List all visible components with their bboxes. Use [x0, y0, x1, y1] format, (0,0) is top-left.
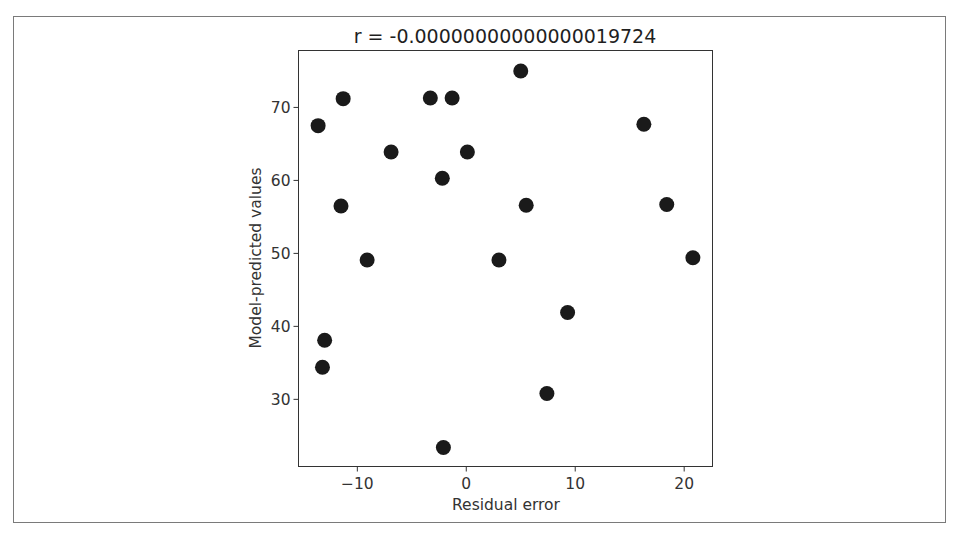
y-axis-ticks: 3040506070 — [271, 99, 299, 409]
data-point — [685, 250, 700, 265]
data-point — [435, 171, 450, 186]
data-point — [491, 252, 506, 267]
y-tick-label: 40 — [271, 318, 291, 336]
data-point — [513, 63, 528, 78]
y-axis-label: Model-predicted values — [247, 168, 265, 349]
chart-title: r = -0.00000000000000019724 — [354, 25, 657, 47]
data-point — [436, 440, 451, 455]
data-point — [560, 305, 575, 320]
x-tick-label: 20 — [674, 475, 694, 493]
data-point — [336, 91, 351, 106]
data-point — [539, 386, 554, 401]
x-axis-label: Residual error — [452, 496, 561, 514]
data-points — [311, 63, 701, 455]
data-point — [360, 252, 375, 267]
data-point — [317, 333, 332, 348]
data-point — [519, 198, 534, 213]
data-point — [636, 117, 651, 132]
data-point — [423, 90, 438, 105]
data-point — [333, 198, 348, 213]
data-point — [384, 144, 399, 159]
y-tick-label: 60 — [271, 172, 291, 190]
x-axis-ticks: −1001020 — [341, 467, 694, 493]
data-point — [445, 90, 460, 105]
scatter-chart: r = -0.00000000000000019724 −1001020 304… — [0, 0, 954, 539]
x-tick-label: −10 — [341, 475, 374, 493]
data-point — [315, 360, 330, 375]
y-tick-label: 70 — [271, 99, 291, 117]
y-tick-label: 50 — [271, 245, 291, 263]
data-point — [460, 144, 475, 159]
x-tick-label: 0 — [461, 475, 471, 493]
x-tick-label: 10 — [565, 475, 585, 493]
data-point — [659, 197, 674, 212]
y-tick-label: 30 — [271, 391, 291, 409]
data-point — [311, 118, 326, 133]
